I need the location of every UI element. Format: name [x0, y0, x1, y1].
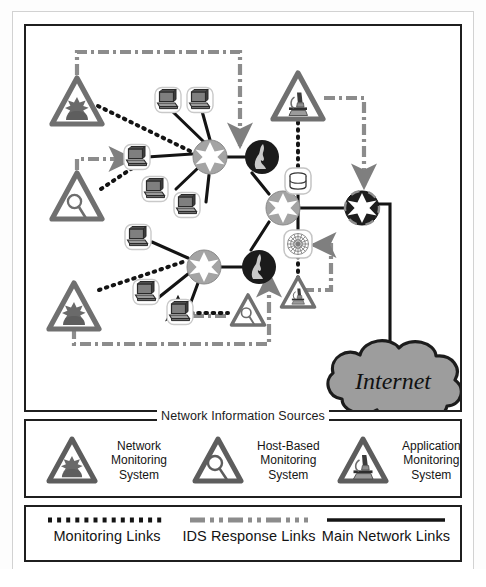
- page-bottom-edge: [0, 569, 486, 587]
- workstation-ws-8[interactable]: [167, 300, 193, 325]
- legend-link-label: Monitoring Links: [32, 528, 182, 544]
- dotted-line-icon: [32, 513, 182, 527]
- firewall-lower[interactable]: [242, 250, 276, 284]
- ids-response-links: [74, 52, 364, 344]
- router-center[interactable]: [266, 191, 300, 225]
- internet-label: Internet: [354, 368, 432, 394]
- host-based-monitoring-icon: [186, 431, 250, 491]
- host-based-monitoring-system-left[interactable]: [52, 173, 102, 219]
- workstation-ws-3[interactable]: [124, 145, 150, 170]
- router-upper-left[interactable]: [193, 140, 227, 174]
- workstation-ws-5[interactable]: [174, 193, 200, 218]
- workstation-ws-4[interactable]: [142, 177, 168, 202]
- legend-source-label: Host-Based Monitoring System: [257, 439, 320, 483]
- database-server[interactable]: [285, 168, 311, 194]
- workstation-ws-1[interactable]: [155, 88, 181, 113]
- workstation-ws-7[interactable]: [133, 280, 159, 305]
- legend-link-ids-response[interactable]: IDS Response Links: [174, 513, 324, 544]
- legend-link-label: IDS Response Links: [174, 528, 324, 544]
- host-based-monitoring-system-bottom[interactable]: [232, 295, 265, 325]
- firewall-upper[interactable]: [245, 140, 279, 174]
- dash-dot-line-icon: [174, 513, 324, 527]
- diagram-page: Internet Network Information Sources Net…: [0, 0, 486, 587]
- legend-source-label: Network Monitoring System: [111, 439, 167, 483]
- solid-line-icon: [311, 513, 461, 527]
- application-monitoring-system-top-right[interactable]: [273, 73, 323, 119]
- network-monitoring-system-bottom-left[interactable]: [49, 283, 99, 329]
- link-types-legend-panel: Monitoring Links IDS Response Links Main…: [24, 505, 462, 562]
- legend-link-main-network[interactable]: Main Network Links: [311, 513, 461, 544]
- legend-source-application-monitoring[interactable]: Application Monitoring System: [331, 421, 461, 500]
- workstation-ws-2[interactable]: [187, 88, 213, 113]
- legend-source-label: Application Monitoring System: [402, 439, 461, 483]
- network-topology-panel: Internet: [24, 24, 462, 412]
- router-lower-left[interactable]: [187, 250, 221, 284]
- legend-source-network-monitoring[interactable]: Network Monitoring System: [40, 421, 167, 500]
- network-monitoring-icon: [40, 431, 104, 491]
- legend-link-monitoring[interactable]: Monitoring Links: [32, 513, 182, 544]
- internet-cloud[interactable]: Internet: [328, 341, 460, 410]
- topology-canvas: Internet: [26, 26, 460, 410]
- network-monitoring-system-top-left[interactable]: [52, 78, 102, 124]
- legend-source-host-based-monitoring[interactable]: Host-Based Monitoring System: [186, 421, 320, 500]
- workstation-ws-6[interactable]: [125, 225, 151, 250]
- router-edge[interactable]: [345, 191, 379, 225]
- application-monitoring-icon: [331, 431, 395, 491]
- legend-link-label: Main Network Links: [311, 528, 461, 544]
- web-server[interactable]: [284, 230, 312, 258]
- network-information-sources-panel: Network Information Sources Network Moni…: [24, 419, 462, 498]
